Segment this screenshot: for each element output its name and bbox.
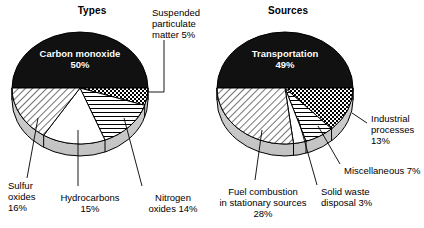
slice-label-nitrogen-l2: oxides 14%: [135, 203, 211, 214]
slice-label-hydrocarbons-l2: 15%: [48, 203, 132, 214]
leader-suspended-particulate: [148, 40, 164, 92]
slice-label-fuel-l1: Fuel combustion: [204, 186, 322, 197]
slice-label-sulfur-l1: Sulfur: [8, 180, 60, 191]
slice-label-fuel-l2: in stationary sources: [204, 197, 322, 208]
slice-label-solid-waste-l2: disposal 3%: [321, 197, 395, 208]
slice-label-nitrogen-l1: Nitrogen: [135, 192, 211, 203]
slice-label-miscellaneous-l1: Miscellaneous 7%: [344, 165, 424, 176]
slice-label-solid-waste-l1: Solid waste: [321, 186, 395, 197]
slice-label-transportation: Transportation 49%: [232, 48, 338, 70]
chart-title-types: Types: [52, 5, 132, 16]
slice-label-suspended-l1: Suspended: [152, 7, 224, 18]
slice-label-industrial-processes: Industrial processes 13%: [371, 113, 424, 147]
slice-label-carbon-monoxide: Carbon monoxide 50%: [24, 48, 136, 70]
figure-canvas: Types Sources Carbon monoxide 50% Suspen…: [0, 0, 424, 228]
slice-label-transportation-value: 49%: [232, 59, 338, 70]
chart-title-sources: Sources: [243, 5, 333, 16]
slice-label-carbon-monoxide-name: Carbon monoxide: [24, 48, 136, 59]
slice-label-suspended-l3: matter 5%: [152, 29, 224, 40]
slice-label-miscellaneous: Miscellaneous 7%: [344, 165, 424, 176]
slice-fuel-combustion[interactable]: [217, 88, 294, 144]
slice-label-industrial-l1: Industrial: [371, 113, 424, 124]
slice-label-solid-waste-disposal: Solid waste disposal 3%: [321, 186, 395, 208]
slice-label-hydrocarbons: Hydrocarbons 15%: [48, 192, 132, 214]
leader-industrial-processes: [352, 113, 367, 123]
slice-label-carbon-monoxide-value: 50%: [24, 59, 136, 70]
slice-label-fuel-l3: 28%: [204, 208, 322, 219]
slice-label-industrial-l2: processes: [371, 124, 424, 135]
slice-label-nitrogen-oxides: Nitrogen oxides 14%: [135, 192, 211, 214]
slice-label-hydrocarbons-l1: Hydrocarbons: [48, 192, 132, 203]
slice-label-suspended-particulate: Suspended particulate matter 5%: [152, 7, 224, 41]
slice-label-industrial-l3: 13%: [371, 135, 424, 146]
slice-label-transportation-name: Transportation: [232, 48, 338, 59]
slice-label-suspended-l2: particulate: [152, 18, 224, 29]
slice-label-fuel-combustion: Fuel combustion in stationary sources 28…: [204, 186, 322, 220]
